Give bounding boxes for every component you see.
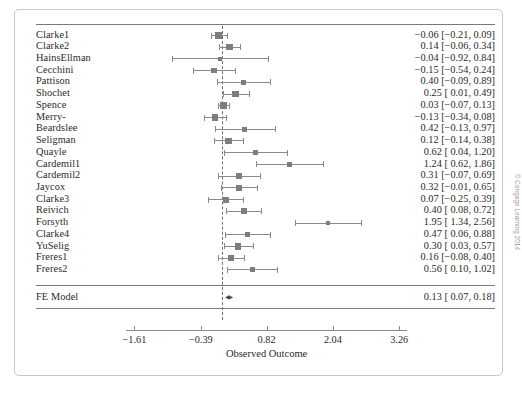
effect-size-marker: [218, 57, 221, 60]
effect-size-marker: [211, 68, 217, 74]
confidence-interval-cap: [215, 126, 216, 132]
confidence-interval-cap: [256, 161, 257, 167]
summary-effect-text: 0.13 [ 0.07, 0.18]: [424, 291, 495, 302]
study-label: Cecchini: [36, 64, 73, 75]
confidence-interval-cap: [219, 44, 220, 50]
confidence-interval-cap: [261, 208, 262, 214]
confidence-interval-cap: [218, 255, 219, 261]
study-label: Merry-: [36, 111, 66, 122]
effect-size-text: 0.62 [ 0.04, 1.20]: [424, 146, 495, 157]
effect-size-text: 0.30 [ 0.03, 0.57]: [424, 240, 495, 251]
study-label: HainsEllman: [36, 52, 91, 63]
confidence-interval-cap: [270, 232, 271, 238]
confidence-interval-cap: [260, 173, 261, 179]
confidence-interval-cap: [218, 103, 219, 109]
confidence-interval-cap: [240, 44, 241, 50]
confidence-interval-cap: [204, 115, 205, 121]
confidence-interval-cap: [270, 79, 271, 85]
x-axis-tick-label: 0.82: [258, 334, 276, 345]
effect-size-marker: [245, 232, 250, 237]
effect-size-marker: [220, 102, 227, 109]
effect-size-marker: [287, 162, 291, 166]
summary-label: FE Model: [36, 291, 78, 302]
summary-separator-rule-top: [36, 285, 495, 286]
effect-size-text: 0.56 [ 0.10, 1.02]: [424, 263, 495, 274]
effect-size-text: 0.14 [−0.06, 0.34]: [421, 40, 495, 51]
effect-size-text: 0.31 [−0.07, 0.69]: [421, 169, 495, 180]
confidence-interval-cap: [226, 115, 227, 121]
effect-size-text: 0.16 [−0.08, 0.40]: [421, 251, 495, 262]
effect-size-text: 0.47 [ 0.06, 0.88]: [424, 228, 495, 239]
study-label: Clarke4: [36, 228, 69, 239]
confidence-interval-cap: [295, 220, 296, 226]
effect-size-text: 0.25 [ 0.01, 0.49]: [424, 87, 495, 98]
study-label: Clarke3: [36, 193, 69, 204]
effect-size-text: 0.12 [−0.14, 0.38]: [421, 134, 495, 145]
confidence-interval-cap: [253, 243, 254, 249]
confidence-interval-cap: [208, 197, 209, 203]
confidence-interval-cap: [226, 208, 227, 214]
confidence-interval-cap: [323, 161, 324, 167]
effect-size-marker: [250, 267, 255, 272]
confidence-interval-cap: [287, 150, 288, 156]
effect-size-text: 0.32 [−0.01, 0.65]: [421, 181, 495, 192]
effect-size-marker: [253, 150, 258, 155]
confidence-interval-cap: [243, 197, 244, 203]
confidence-interval-cap: [211, 33, 212, 39]
effect-size-marker: [215, 32, 222, 39]
confidence-interval-cap: [225, 232, 226, 238]
effect-size-marker: [226, 44, 232, 50]
confidence-interval-cap: [257, 185, 258, 191]
x-axis-title: Observed Outcome: [226, 348, 307, 359]
effect-size-text: 1.24 [ 0.62, 1.86]: [424, 158, 495, 169]
effect-size-text: −0.06 [−0.21, 0.09]: [415, 29, 495, 40]
effect-size-marker: [235, 243, 241, 249]
confidence-interval-cap: [249, 91, 250, 97]
x-axis-tick-label: 3.26: [390, 334, 408, 345]
effect-size-marker: [223, 197, 229, 203]
effect-size-text: 0.07 [−0.25, 0.39]: [421, 193, 495, 204]
confidence-interval-cap: [218, 173, 219, 179]
confidence-interval-cap: [221, 185, 222, 191]
study-label: Reivich: [36, 204, 69, 215]
x-axis-tick: [134, 326, 135, 330]
x-axis-tick-label: −1.61: [123, 334, 147, 345]
effect-size-text: 0.03 [−0.07, 0.13]: [421, 99, 495, 110]
effect-size-marker: [232, 91, 238, 97]
summary-separator-rule-bottom: [36, 308, 495, 309]
study-label: Forsyth: [36, 216, 68, 227]
x-axis-tick-label: 2.04: [324, 334, 342, 345]
x-axis-tick-label: −0.39: [189, 334, 213, 345]
confidence-interval-cap: [214, 138, 215, 144]
confidence-interval-cap: [229, 103, 230, 109]
confidence-interval-cap: [227, 267, 228, 273]
study-label: Spence: [36, 99, 66, 110]
confidence-interval-cap: [243, 138, 244, 144]
study-label: Shochet: [36, 87, 70, 98]
confidence-interval-cap: [244, 255, 245, 261]
effect-size-text: 0.40 [−0.09, 0.89]: [421, 75, 495, 86]
confidence-interval-cap: [224, 150, 225, 156]
study-label: Quayle: [36, 146, 66, 157]
confidence-interval-cap: [277, 267, 278, 273]
confidence-interval-cap: [268, 56, 269, 62]
study-label: Clarke1: [36, 29, 69, 40]
confidence-interval-cap: [361, 220, 362, 226]
effect-size-marker: [236, 173, 242, 179]
effect-size-text: 0.42 [−0.13, 0.97]: [421, 122, 495, 133]
study-label: YuSelig: [36, 240, 69, 251]
study-label: Cardemil1: [36, 158, 80, 169]
effect-size-marker: [212, 114, 218, 120]
x-axis-tick: [201, 326, 202, 330]
study-label: Seligman: [36, 134, 76, 145]
effect-size-text: 0.40 [ 0.08, 0.72]: [424, 204, 495, 215]
study-label: Jaycox: [36, 181, 65, 192]
study-label: Pattison: [36, 75, 70, 86]
x-axis-line: [126, 330, 407, 331]
confidence-interval-cap: [275, 126, 276, 132]
forest-plot: Clarke1−0.06 [−0.21, 0.09]Clarke20.14 [−…: [0, 0, 522, 399]
confidence-interval-cap: [172, 56, 173, 62]
effect-size-marker: [228, 255, 234, 261]
effect-size-marker: [225, 138, 231, 144]
summary-diamond: [225, 295, 233, 299]
